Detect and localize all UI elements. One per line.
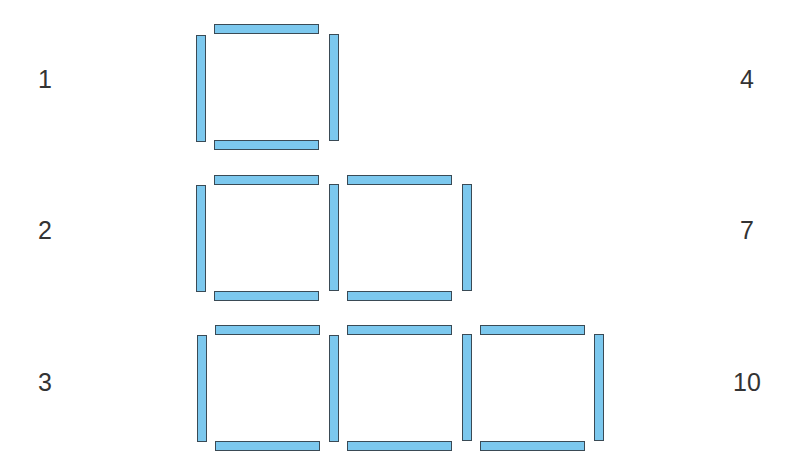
matchstick xyxy=(462,184,472,291)
matchstick xyxy=(594,334,604,441)
matchstick xyxy=(347,291,452,301)
matchstick xyxy=(196,185,206,292)
row-1-squares-label: 1 xyxy=(38,67,52,92)
matchstick xyxy=(214,291,319,301)
row-1-sticks-label: 4 xyxy=(740,67,754,92)
matchstick xyxy=(197,335,207,442)
matchstick xyxy=(347,325,452,335)
row-3-squares-label: 3 xyxy=(38,370,52,395)
matchstick xyxy=(347,175,452,185)
matchstick xyxy=(347,441,452,451)
matchstick xyxy=(480,325,585,335)
matchstick xyxy=(196,35,206,142)
matchstick xyxy=(214,175,319,185)
matchstick xyxy=(480,441,585,451)
row-2-sticks-label: 7 xyxy=(740,218,754,243)
matchstick xyxy=(214,24,319,34)
matchstick xyxy=(329,184,339,291)
row-3-sticks-label: 10 xyxy=(733,370,761,395)
matchstick xyxy=(215,441,320,451)
matchstick xyxy=(329,335,339,442)
matchstick xyxy=(329,34,339,141)
row-2-squares-label: 2 xyxy=(38,218,52,243)
matchstick xyxy=(214,140,319,150)
matchstick xyxy=(462,334,472,441)
matchstick xyxy=(215,325,320,335)
